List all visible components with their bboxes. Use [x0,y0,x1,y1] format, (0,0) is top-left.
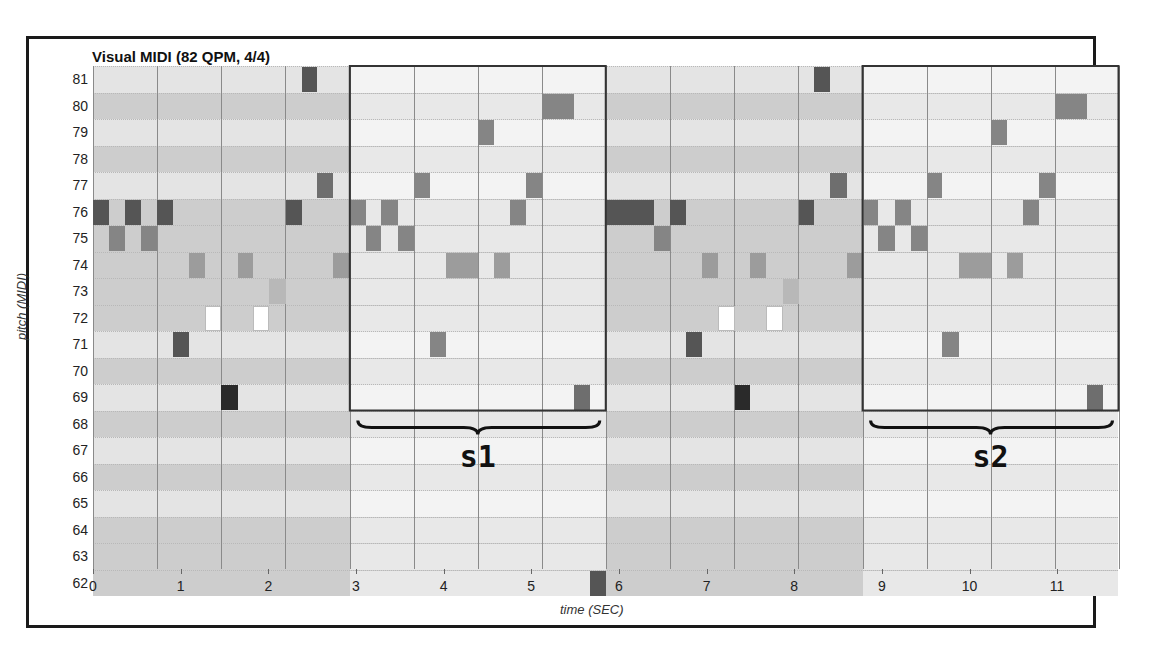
y-tick-label: 79 [58,124,88,140]
midi-note [317,173,333,198]
y-tick-label: 80 [58,98,88,114]
segment-column-tint [350,571,606,597]
midi-note [991,120,1008,145]
midi-note [302,67,318,92]
beat-gridline [798,66,799,569]
beat-gridline [285,66,286,569]
midi-note [574,385,590,410]
midi-note [350,200,366,225]
midi-note [654,226,670,251]
midi-note [1023,200,1039,225]
midi-note [783,279,799,304]
midi-note [173,332,190,357]
midi-note [542,94,574,119]
y-tick-label: 66 [58,469,88,485]
midi-note [446,253,478,278]
y-tick-label: 68 [58,416,88,432]
midi-note [333,253,350,278]
midi-note [863,200,879,225]
midi-note [526,173,542,198]
x-tick [268,569,269,574]
beat-gridline [157,66,158,569]
x-tick [1057,569,1058,574]
beat-gridline [1055,66,1056,569]
midi-note [269,279,286,304]
midi-note [878,226,895,251]
x-tick [970,569,971,574]
midi-note [125,200,141,225]
midi-note [109,226,126,251]
midi-note [766,306,783,331]
y-tick-label: 72 [58,310,88,326]
midi-note [430,332,447,357]
midi-note [735,385,751,410]
beat-gridline [414,66,415,569]
midi-note [494,253,511,278]
midi-note [253,306,269,331]
midi-note [830,173,847,198]
y-tick-label: 81 [58,71,88,87]
segment-label-s2: s2 [972,439,1008,474]
y-tick-label: 67 [58,442,88,458]
x-tick [444,569,445,574]
x-tick [707,569,708,574]
x-tick-label: 5 [527,578,535,594]
midi-note [590,571,606,596]
x-tick-label: 2 [264,578,272,594]
y-tick-label: 70 [58,363,88,379]
midi-note [911,226,927,251]
midi-note [959,253,991,278]
midi-note [1007,253,1023,278]
x-tick [93,569,94,574]
segment-column-tint [863,571,1119,597]
piano-roll-plot: 8180797877767574737271706968676665646362… [93,66,1118,569]
x-tick-label: 9 [878,578,886,594]
y-axis-label: pitch (MIDI) [14,273,29,340]
midi-note [141,226,157,251]
beat-gridline [542,66,543,569]
y-tick-label: 73 [58,283,88,299]
x-tick-label: 7 [703,578,711,594]
chart-title: Visual MIDI (82 QPM, 4/4) [92,48,270,65]
x-tick [356,569,357,574]
midi-note [750,253,766,278]
x-tick [794,569,795,574]
y-tick-label: 78 [58,151,88,167]
y-tick-label: 76 [58,204,88,220]
x-tick-label: 4 [440,578,448,594]
midi-note [414,173,430,198]
midi-note [1055,94,1087,119]
midi-note [895,200,911,225]
x-tick-label: 6 [615,578,623,594]
midi-note [478,120,494,145]
y-tick-label: 75 [58,230,88,246]
beat-gridline [221,66,222,569]
x-tick [882,569,883,574]
beat-gridline [1119,66,1120,569]
midi-note [814,67,830,92]
x-tick-label: 10 [962,578,978,594]
y-tick-label: 65 [58,495,88,511]
beat-gridline [670,66,671,569]
y-tick-label: 77 [58,177,88,193]
midi-note [1087,385,1103,410]
x-tick-label: 8 [790,578,798,594]
beat-gridline [350,66,351,569]
beat-gridline [606,66,607,569]
midi-note [686,332,702,357]
midi-note [702,253,718,278]
midi-note [718,306,735,331]
x-tick [531,569,532,574]
midi-note [93,200,109,225]
midi-note [157,200,173,225]
midi-note [398,226,414,251]
midi-note [606,200,638,225]
midi-note [942,332,959,357]
midi-note [927,173,943,198]
midi-note [381,200,398,225]
x-tick [619,569,620,574]
y-tick-label: 62 [58,575,88,591]
midi-note [221,385,238,410]
midi-note [670,200,687,225]
midi-note [189,253,205,278]
